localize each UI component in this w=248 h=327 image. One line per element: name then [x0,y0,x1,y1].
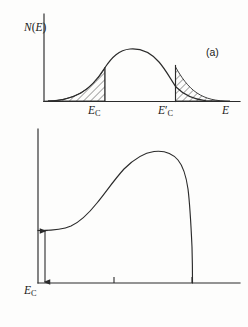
figure-container: N(E) EC E′C E (a) [0,0,248,327]
tick-label-ec-prime: E′C [158,105,173,119]
panel-a-x-axis-label: E [222,105,229,117]
panel-a-density-of-states: N(E) EC E′C E (a) [0,0,248,130]
lower-localized-tail [48,68,105,101]
panel-b-y-axis-label: EC [24,285,37,299]
mobility-edge-curve [42,151,193,283]
panel-b-mobility-edge: EC ⅓B 1 2 V0/B (b) [0,125,248,327]
upper-localized-tail [175,66,230,101]
panel-a-y-axis-label: N(E) [24,22,46,34]
tick-label-ec: EC [88,105,101,119]
panel-a-plot [0,0,248,130]
panel-b-plot [0,125,248,327]
panel-a-caption: (a) [206,47,219,58]
